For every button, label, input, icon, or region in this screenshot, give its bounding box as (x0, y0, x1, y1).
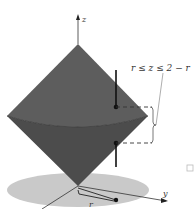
range-brace (150, 107, 156, 143)
label-pointer (156, 73, 163, 125)
corner-marker (187, 165, 193, 171)
z-axis-arrow-icon (76, 14, 80, 20)
y-axis-label: y (162, 189, 168, 198)
solid-region-diagram: z r ≤ z ≤ 2 − r y r (0, 0, 196, 209)
upper-cone (7, 44, 148, 127)
radius-endpoint (114, 198, 118, 202)
y-axis-arrow-icon (161, 198, 168, 203)
inequality-label: r ≤ z ≤ 2 − r (131, 63, 191, 73)
z-axis-label: z (81, 15, 87, 24)
